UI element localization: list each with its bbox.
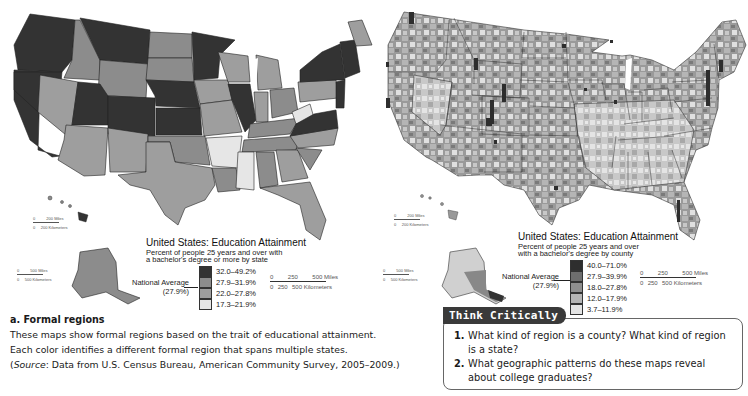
think-critically-title: Think Critically (443, 307, 566, 324)
question-item: 1.What kind of region is a county? What … (454, 329, 734, 357)
alaska-scale: 0 500 Miles 0 500 Kilometers (17, 268, 51, 282)
map-legend: 40.0–71.0% 27.9–39.9% 18.0–27.8% 12.0–17… (570, 260, 627, 315)
map-title: United States: Education Attainment (518, 232, 678, 243)
legend-item: 22.0–27.8% (199, 288, 256, 299)
caption-heading: a. Formal regions (10, 312, 430, 327)
map-legend: 32.0–49.2% 27.9–31.9% 22.0–27.8% 17.3–21… (199, 266, 256, 310)
caption-source: (Source: Data from U.S. Census Bureau, A… (10, 357, 430, 372)
main-scale: 0250500 Miles 0250500 Kilometers (270, 274, 338, 290)
scale-bar (394, 219, 420, 221)
main-scale: 0250500 Miles 0250500 Kilometers (640, 270, 708, 286)
national-average: National Average (27.9%) (502, 272, 559, 291)
alaska-scale: 0 500 Miles 0 500 Kilometers (383, 268, 417, 282)
national-average-marker (554, 280, 570, 281)
map-subtitle: with a bachelor's degree by county (518, 250, 678, 258)
scale-bar (270, 281, 326, 283)
figure-caption: a. Formal regions These maps show formal… (10, 312, 430, 372)
legend-item: 40.0–71.0% (570, 260, 627, 271)
caption-line: Each color identifies a different formal… (10, 342, 430, 357)
legend-title-block: United States: Education Attainment Perc… (518, 232, 678, 258)
question-list: 1.What kind of region is a county? What … (454, 329, 734, 385)
legend-swatch (570, 293, 583, 304)
legend-swatch (570, 282, 583, 293)
state-education-map: 0 200 Miles 0 200 Kilometers 0 500 Miles… (0, 0, 374, 310)
legend-swatch (199, 277, 212, 288)
legend-item: 12.0–17.9% (570, 293, 627, 304)
legend-swatch (570, 271, 583, 282)
county-education-map: 0 200 Miles 0 200 Kilometers 0 500 Miles… (374, 0, 748, 310)
legend-item: 17.3–21.9% (199, 299, 256, 310)
legend-item: 27.9–39.9% (570, 271, 627, 282)
scale-bar (640, 277, 696, 279)
scale-bar (33, 222, 59, 224)
legend-swatch (199, 288, 212, 299)
legend-item: 3.7–11.9% (570, 304, 627, 315)
legend-item: 18.0–27.8% (570, 282, 627, 293)
legend-item: 27.9–31.9% (199, 277, 256, 288)
legend-swatch (199, 266, 212, 277)
legend-swatch (199, 299, 212, 310)
legend-title-block: United States: Education Attainment Perc… (146, 238, 306, 264)
scale-bar (383, 274, 409, 276)
hawaii-scale: 0 200 Miles 0 200 Kilometers (33, 216, 67, 230)
legend-swatch (570, 304, 583, 315)
scale-bar (17, 274, 43, 276)
legend-item: 32.0–49.2% (199, 266, 256, 277)
map-title: United States: Education Attainment (146, 238, 306, 249)
think-critically-box: 1.What kind of region is a county? What … (443, 318, 743, 390)
national-average: National Average (27.9%) (132, 278, 189, 297)
legend-swatch (570, 260, 583, 271)
hawaii-scale: 0 200 Miles 0 200 Kilometers (394, 213, 428, 227)
question-item: 2.What geographic patterns do these maps… (454, 357, 734, 385)
us-counties-map-graphic (374, 0, 748, 310)
national-average-marker (184, 287, 198, 288)
map-subtitle: a bachelor's degree or more by state (146, 256, 306, 264)
caption-line: These maps show formal regions based on … (10, 327, 430, 342)
